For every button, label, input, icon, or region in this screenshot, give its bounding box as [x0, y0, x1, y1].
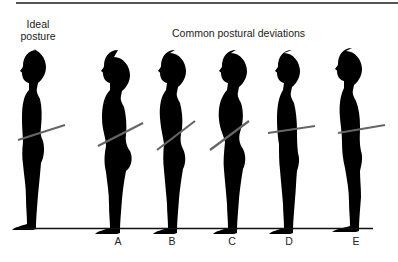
label-b: B: [165, 235, 179, 247]
silhouette-a: [95, 50, 132, 234]
silhouette-ideal: [12, 49, 46, 230]
silhouette-e: [332, 48, 362, 232]
figure-ideal: [12, 49, 65, 230]
silhouette-b: [153, 50, 186, 234]
figure-a: [95, 50, 143, 234]
label-d: D: [282, 235, 296, 247]
figure-e: [332, 48, 385, 232]
label-a: A: [111, 235, 125, 247]
figure-d: [268, 50, 315, 234]
silhouette-c: [213, 50, 247, 234]
silhouette-d: [269, 50, 300, 234]
posture-diagram: [0, 0, 398, 262]
figure-b: [153, 50, 195, 234]
label-c: C: [225, 235, 239, 247]
label-e: E: [349, 235, 363, 247]
figure-c: [210, 50, 249, 234]
